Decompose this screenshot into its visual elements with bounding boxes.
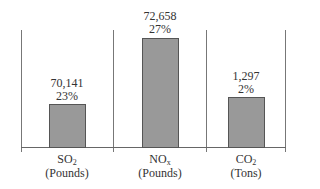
divider-1 — [113, 30, 114, 152]
bar-so2-value-label: 70,14123% — [27, 77, 107, 103]
x-label-co2: CO2 (Tons) — [200, 152, 292, 180]
bar-nox-value-label: 72,65827% — [120, 10, 200, 36]
bar-co2-value-label: 1,2972% — [206, 70, 286, 96]
bar-so2 — [49, 104, 86, 148]
x-label-so2: SO2 (Pounds) — [21, 152, 113, 180]
x-label-nox: NOx (Pounds) — [114, 152, 206, 180]
bar-co2 — [228, 97, 265, 148]
bar-nox — [142, 38, 179, 148]
divider-left — [21, 30, 22, 152]
